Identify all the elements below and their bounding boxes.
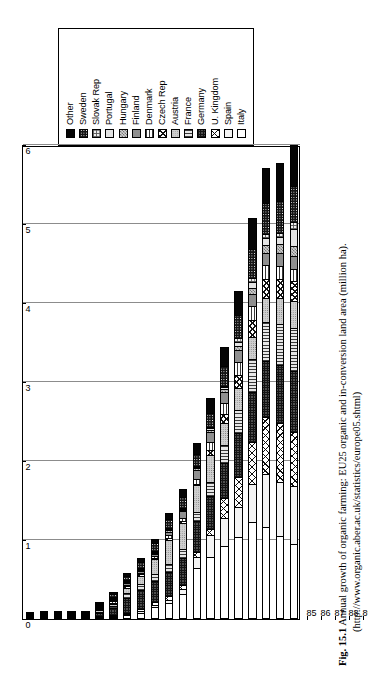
bar-segment[interactable] <box>151 574 159 581</box>
stacked-bar[interactable] <box>290 145 298 619</box>
bar-row[interactable] <box>206 145 214 619</box>
bar-segment[interactable] <box>220 414 228 423</box>
bar-segment[interactable] <box>290 145 298 186</box>
legend-item[interactable]: Czech Rep <box>156 36 169 138</box>
bar-segment[interactable] <box>234 338 242 343</box>
bar-row[interactable] <box>248 145 256 619</box>
legend-item[interactable]: Denmark <box>143 36 156 138</box>
bar-segment[interactable] <box>206 399 214 413</box>
bar-segment[interactable] <box>151 558 159 560</box>
bar-segment[interactable] <box>165 600 173 603</box>
bar-segment[interactable] <box>179 523 187 549</box>
stacked-bar[interactable] <box>95 602 103 619</box>
bar-segment[interactable] <box>290 256 298 269</box>
bar-segment[interactable] <box>179 521 187 523</box>
bar-row[interactable] <box>220 145 228 619</box>
bar-segment[interactable] <box>290 229 298 246</box>
bar-segment[interactable] <box>109 601 117 602</box>
bar-segment[interactable] <box>206 456 214 483</box>
bar-segment[interactable] <box>234 433 242 476</box>
bar-segment[interactable] <box>165 603 173 619</box>
bar-segment[interactable] <box>220 463 228 499</box>
bar-segment[interactable] <box>165 535 173 538</box>
bar-segment[interactable] <box>137 562 145 568</box>
bar-row[interactable] <box>54 145 62 619</box>
bar-segment[interactable] <box>81 614 89 615</box>
bar-segment[interactable] <box>290 186 298 222</box>
stacked-bar[interactable] <box>234 291 242 619</box>
bar-segment[interactable] <box>179 509 187 510</box>
stacked-bar[interactable] <box>54 615 62 619</box>
legend-item[interactable]: Sweden <box>77 36 90 138</box>
bar-segment[interactable] <box>206 529 214 535</box>
bar-segment[interactable] <box>206 535 214 556</box>
bar-segment[interactable] <box>248 278 256 283</box>
bar-segment[interactable] <box>95 617 103 618</box>
bar-row[interactable] <box>276 145 284 619</box>
legend-item[interactable]: Hungary <box>117 36 130 138</box>
bar-segment[interactable] <box>276 536 284 619</box>
bar-segment[interactable] <box>95 612 103 613</box>
bar-segment[interactable] <box>179 549 187 558</box>
bar-segment[interactable] <box>109 608 117 615</box>
bar-segment[interactable] <box>54 613 62 614</box>
bar-segment[interactable] <box>262 474 270 527</box>
bar-segment[interactable] <box>137 611 145 613</box>
bar-segment[interactable] <box>165 532 173 535</box>
legend-item[interactable]: Italy <box>235 36 248 138</box>
bar-segment[interactable] <box>193 454 201 467</box>
bar-segment[interactable] <box>95 606 103 607</box>
bar-segment[interactable] <box>137 573 145 575</box>
bar-segment[interactable] <box>220 389 228 392</box>
bar-segment[interactable] <box>234 362 242 375</box>
bar-segment[interactable] <box>123 585 131 587</box>
bar-segment[interactable] <box>290 246 298 256</box>
bar-segment[interactable] <box>67 615 75 616</box>
bar-segment[interactable] <box>95 609 103 610</box>
bar-segment[interactable] <box>109 597 117 598</box>
bar-segment[interactable] <box>151 602 159 605</box>
bar-segment[interactable] <box>95 602 103 603</box>
bar-segment[interactable] <box>81 617 89 618</box>
bar-segment[interactable] <box>179 594 187 619</box>
bar-segment[interactable] <box>276 253 284 266</box>
bar-segment[interactable] <box>206 442 214 450</box>
bar-row[interactable] <box>151 145 159 619</box>
bar-segment[interactable] <box>123 614 131 615</box>
bar-segment[interactable] <box>95 607 103 608</box>
bar-segment[interactable] <box>234 350 242 362</box>
bar-segment[interactable] <box>220 423 228 445</box>
bar-segment[interactable] <box>234 388 242 409</box>
bar-row[interactable] <box>137 145 145 619</box>
bar-segment[interactable] <box>248 320 256 337</box>
bar-segment[interactable] <box>206 413 214 427</box>
stacked-bar[interactable] <box>220 347 228 619</box>
stacked-bar[interactable] <box>262 168 270 619</box>
stacked-bar[interactable] <box>109 592 117 619</box>
bar-segment[interactable] <box>234 315 242 338</box>
bar-segment[interactable] <box>262 238 270 245</box>
bar-segment[interactable] <box>109 616 117 617</box>
bar-segment[interactable] <box>123 576 131 581</box>
bar-row[interactable] <box>179 145 187 619</box>
bar-segment[interactable] <box>290 301 298 328</box>
bar-segment[interactable] <box>290 328 298 371</box>
legend-item[interactable]: U. Kingdom <box>209 36 222 138</box>
bar-segment[interactable] <box>165 529 173 530</box>
bar-segment[interactable] <box>137 574 145 576</box>
bar-segment[interactable] <box>248 392 256 442</box>
bar-segment[interactable] <box>206 557 214 619</box>
bar-segment[interactable] <box>290 281 298 302</box>
bar-segment[interactable] <box>193 485 201 512</box>
bar-segment[interactable] <box>95 616 103 617</box>
bar-segment[interactable] <box>95 603 103 605</box>
bar-segment[interactable] <box>276 423 284 481</box>
stacked-bar[interactable] <box>248 218 256 619</box>
bar-segment[interactable] <box>109 593 117 595</box>
stacked-bar[interactable] <box>81 612 89 619</box>
bar-segment[interactable] <box>137 590 145 609</box>
bar-segment[interactable] <box>123 593 131 598</box>
bar-segment[interactable] <box>262 361 270 416</box>
legend-item[interactable]: Portugal <box>103 36 116 138</box>
bar-segment[interactable] <box>123 583 131 585</box>
